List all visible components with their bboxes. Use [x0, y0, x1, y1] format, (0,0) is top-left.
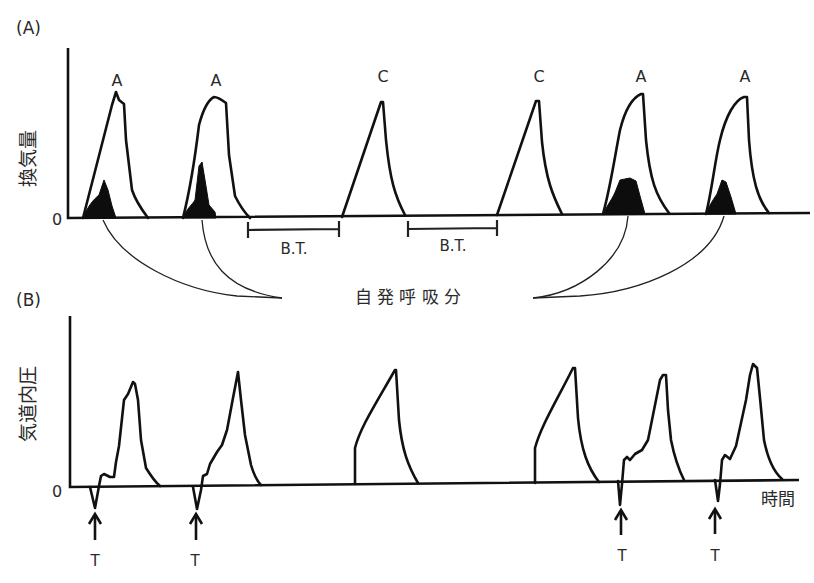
pointer-curve	[533, 216, 628, 298]
panel-b-xlabel: 時間	[761, 489, 795, 509]
ventilation-waveform-figure: (A) 換気量 0 A A C C A A B.T. B.T.	[0, 0, 814, 583]
trigger-arrow	[190, 514, 202, 540]
panel-b-ylabel: 気道内圧	[17, 366, 39, 442]
pressure-trace-3	[355, 370, 418, 484]
trigger-label: T	[709, 547, 720, 565]
breath-label: C	[377, 67, 388, 86]
breath-trace-c2	[497, 101, 562, 215]
breath-trace-a1	[83, 92, 148, 218]
breath-label: A	[740, 67, 751, 86]
breath-label: A	[211, 71, 222, 90]
panel-a-label: (A)	[16, 18, 41, 38]
trigger-arrow	[89, 514, 101, 540]
trigger-label: T	[616, 547, 627, 565]
trigger-arrow	[709, 509, 721, 534]
breath-time-bar	[248, 221, 339, 238]
pointer-curve	[533, 216, 724, 298]
breath-label: A	[112, 71, 123, 90]
pressure-trace-1	[90, 382, 160, 508]
breath-time-label: B.T.	[280, 240, 307, 258]
panel-b-axes	[70, 316, 799, 487]
panel-a-zero-label: 0	[52, 210, 62, 229]
trigger-label: T	[89, 552, 100, 570]
panel-b: (B) 気道内圧 0 時間 T T T T	[16, 290, 799, 570]
breath-time-label: B.T.	[439, 237, 466, 255]
pressure-trace-2	[193, 372, 261, 509]
trigger-arrow	[615, 510, 627, 535]
pointer-curve	[103, 220, 282, 298]
breath-label: C	[533, 67, 544, 86]
panel-a-ylabel: 換気量	[17, 130, 39, 187]
breath-time-bar	[408, 220, 497, 237]
pressure-trace-5	[618, 375, 684, 505]
panel-a-axes	[68, 48, 810, 218]
spontaneous-breath-label: 自 発 呼 吸 分	[355, 287, 462, 307]
trigger-label: T	[189, 552, 200, 570]
breath-trace-c1	[342, 102, 405, 217]
breath-trace-a2	[183, 97, 250, 218]
pointer-curve	[202, 220, 282, 298]
breath-label: A	[636, 67, 647, 86]
panel-b-zero-label: 0	[52, 482, 62, 501]
panel-b-label: (B)	[16, 290, 41, 310]
panel-a: (A) 換気量 0 A A C C A A B.T. B.T.	[16, 18, 810, 307]
pressure-trace-4	[535, 368, 599, 483]
